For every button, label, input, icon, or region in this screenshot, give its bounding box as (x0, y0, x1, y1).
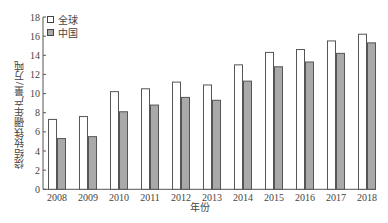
bar-global-2015 (266, 52, 274, 189)
x-tick-label: 2017 (326, 192, 346, 203)
x-tick-label: 2016 (295, 192, 315, 203)
bar-china-2010 (120, 112, 128, 190)
y-tick-label: 18 (30, 12, 40, 23)
bar-china-2012 (182, 97, 190, 189)
bar-global-2009 (80, 117, 88, 190)
legend-item-china: 中国 (47, 26, 78, 39)
bar-global-2010 (111, 92, 119, 190)
bar-global-2016 (297, 50, 305, 190)
y-tick-label: 14 (30, 50, 40, 61)
bar-global-2013 (204, 85, 212, 189)
bar-china-2008 (58, 139, 66, 190)
bar-china-2011 (151, 105, 159, 189)
bar-global-2014 (235, 65, 243, 189)
legend: 全球 中国 (47, 13, 78, 39)
x-tick-label: 2018 (357, 192, 377, 203)
x-axis-label: 年份 (180, 199, 220, 214)
bar-global-2017 (328, 41, 336, 189)
bar-global-2011 (142, 89, 150, 190)
legend-swatch-china (47, 29, 54, 36)
x-tick-label: 2008 (47, 192, 67, 203)
bar-china-2009 (89, 137, 97, 190)
y-tick-label: 16 (30, 31, 40, 42)
y-tick-label: 2 (35, 165, 40, 176)
bar-global-2008 (49, 119, 57, 189)
x-tick-label: 2009 (78, 192, 98, 203)
legend-label-china: 中国 (58, 25, 78, 40)
bar-china-2014 (244, 81, 252, 189)
bar-china-2013 (213, 100, 221, 189)
bar-china-2018 (368, 43, 376, 189)
x-tick-label: 2015 (264, 192, 284, 203)
bar-china-2016 (306, 62, 314, 189)
bar-global-2012 (173, 82, 181, 189)
bar-global-2018 (359, 34, 367, 189)
y-tick-label: 12 (30, 69, 40, 80)
y-tick-label: 10 (30, 88, 40, 99)
y-tick-label: 8 (35, 107, 40, 118)
y-tick-label: 6 (35, 126, 40, 137)
y-tick-label: 4 (35, 146, 40, 157)
bar-china-2017 (337, 53, 345, 189)
x-tick-label: 2010 (109, 192, 129, 203)
x-tick-label: 2011 (140, 192, 160, 203)
y-tick-label: 0 (35, 184, 40, 195)
x-tick-label: 2014 (233, 192, 253, 203)
legend-swatch-global (47, 16, 54, 23)
bar-china-2015 (275, 67, 283, 190)
y-axis-label: 烧结钕铁硼年产量/万吨 (14, 40, 28, 190)
